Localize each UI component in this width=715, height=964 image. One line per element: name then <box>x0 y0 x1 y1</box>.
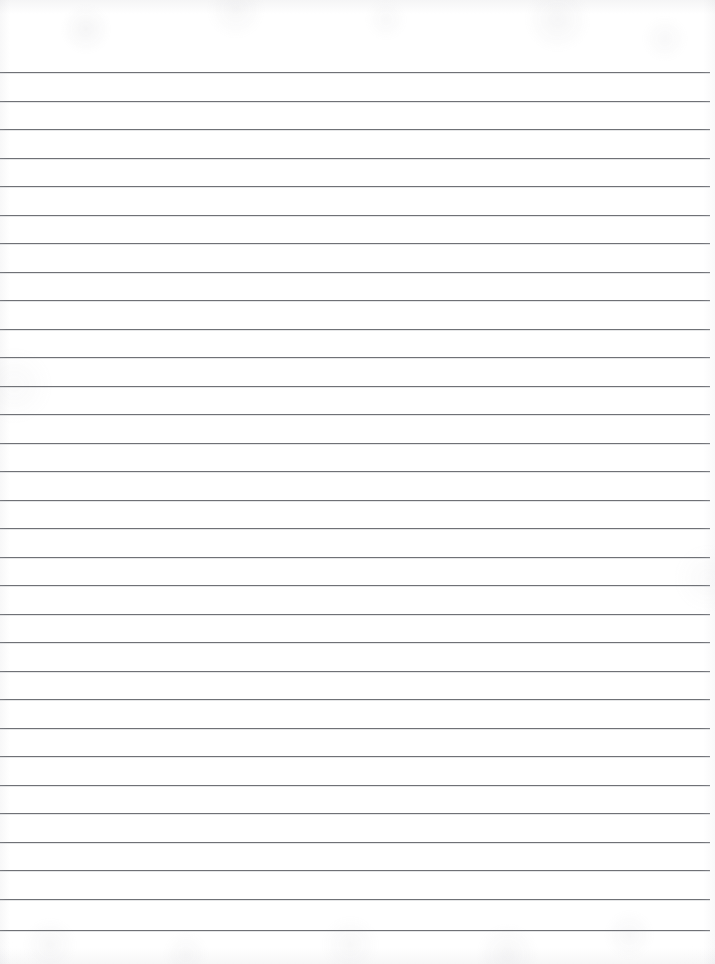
rule-line <box>0 272 710 273</box>
rule-line <box>0 842 710 843</box>
rule-line <box>0 186 710 187</box>
rule-line <box>0 129 710 130</box>
rule-line <box>0 528 710 529</box>
rule-line <box>0 215 710 216</box>
rule-line <box>0 585 710 586</box>
rule-line <box>0 813 710 814</box>
rule-line <box>0 642 710 643</box>
rule-line <box>0 300 710 301</box>
rule-line <box>0 386 710 387</box>
rule-line <box>0 930 710 931</box>
rule-line <box>0 101 710 102</box>
rule-line <box>0 785 710 786</box>
rule-line <box>0 899 710 900</box>
rule-line <box>0 443 710 444</box>
scanned-page <box>0 0 715 964</box>
rule-line <box>0 414 710 415</box>
rule-line <box>0 557 710 558</box>
rule-line <box>0 614 710 615</box>
rule-line <box>0 699 710 700</box>
rule-line <box>0 728 710 729</box>
rule-line <box>0 756 710 757</box>
rule-line <box>0 243 710 244</box>
rule-line <box>0 158 710 159</box>
rule-line <box>0 471 710 472</box>
rule-line <box>0 72 710 73</box>
rule-line <box>0 870 710 871</box>
rule-line <box>0 500 710 501</box>
rule-line <box>0 357 710 358</box>
rule-line-group <box>0 0 715 964</box>
rule-line <box>0 329 710 330</box>
rule-line <box>0 671 710 672</box>
